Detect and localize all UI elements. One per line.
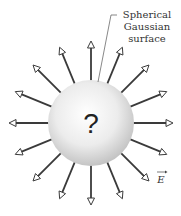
field-arrow (106, 160, 123, 199)
surface-label-line-2: Gaussian (124, 21, 171, 32)
field-arrow (119, 65, 149, 95)
field-arrow (106, 47, 123, 86)
field-arrow (128, 91, 167, 108)
unknown-charge-symbol: ? (83, 108, 99, 139)
surface-label-line-1: Spherical (123, 9, 171, 20)
field-arrow (59, 47, 76, 86)
field-arrow (128, 138, 167, 155)
label-leader-line (98, 15, 117, 82)
field-arrow (88, 41, 95, 83)
field-arrow (9, 120, 51, 127)
field-arrow (131, 120, 173, 127)
gaussian-surface-diagram: ? Spherical Gaussian surface E (0, 0, 181, 216)
field-arrow (33, 151, 63, 181)
field-arrow (59, 160, 76, 199)
field-arrow (88, 163, 95, 205)
svg-text:E: E (156, 174, 165, 185)
field-arrow (119, 151, 149, 181)
field-arrow (15, 138, 54, 155)
field-arrow (15, 91, 54, 108)
surface-label-line-3: surface (128, 33, 166, 44)
field-vector-label: E (156, 171, 167, 186)
field-arrow (33, 65, 63, 95)
